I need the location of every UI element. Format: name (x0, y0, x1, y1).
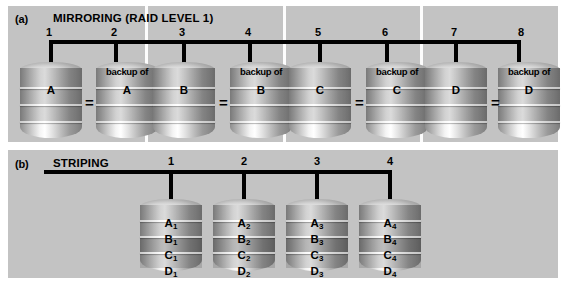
stripe-label-b: B2 (213, 233, 275, 245)
equals-sign-3: = (355, 94, 364, 111)
stripe-number-3: 3 (307, 155, 327, 167)
stripe-label-b: B4 (359, 233, 421, 245)
disk-body (425, 68, 487, 138)
disk-body (96, 68, 158, 138)
stripe-label-c: C2 (213, 249, 275, 261)
panel-b-tag: (b) (15, 158, 28, 170)
equals-sign-1: = (85, 94, 94, 111)
disk-label: B (230, 84, 292, 96)
striping-bus-line (44, 170, 392, 174)
disk-body (153, 68, 215, 138)
disk-body (20, 68, 82, 138)
panel-b-title: STRIPING (53, 157, 109, 169)
disk-body (230, 68, 292, 138)
bus-drop-6 (385, 40, 389, 62)
disk-label: C (366, 84, 428, 96)
disk-number-4: 4 (238, 26, 258, 38)
stripe-label-c: C1 (140, 249, 202, 261)
mirroring-bus-line (49, 40, 521, 44)
disk-label: D (425, 84, 487, 96)
stripe-label-a: A3 (286, 217, 348, 229)
equals-sign-2: = (219, 94, 228, 111)
backup-caption: backup of (96, 66, 158, 77)
disk-body (366, 68, 428, 138)
stripe-label-d: D2 (213, 265, 275, 277)
stripe-label-b: B1 (140, 233, 202, 245)
raid-diagram: (a) MIRRORING (RAID LEVEL 1) 1 2 3 4 5 6… (0, 0, 566, 284)
disk-number-5: 5 (308, 26, 328, 38)
bus-drop-4 (248, 40, 252, 62)
disk-body (498, 68, 560, 138)
stripe-label-d: D4 (359, 265, 421, 277)
backup-caption: backup of (498, 66, 560, 77)
disk-number-6: 6 (375, 26, 395, 38)
stripe-label-c: C3 (286, 249, 348, 261)
stripe-label-b: B3 (286, 233, 348, 245)
equals-sign-4: = (491, 94, 500, 111)
panel-a-tag: (a) (15, 13, 28, 25)
stripe-number-4: 4 (380, 155, 400, 167)
stripe-label-c: C4 (359, 249, 421, 261)
stripe-number-1: 1 (161, 155, 181, 167)
disk-label: D (498, 84, 560, 96)
panel-a-title: MIRRORING (RAID LEVEL 1) (53, 12, 213, 24)
backup-caption: backup of (230, 66, 292, 77)
mirroring-panel: (a) MIRRORING (RAID LEVEL 1) 1 2 3 4 5 6… (8, 6, 558, 142)
stripe-label-a: A1 (140, 217, 202, 229)
disk-label: C (289, 84, 351, 96)
bus-drop-8 (517, 40, 521, 62)
disk-body (289, 68, 351, 138)
disk-number-3: 3 (172, 26, 192, 38)
disk-number-7: 7 (444, 26, 464, 38)
bus-drop-2 (114, 40, 118, 62)
stripe-label-d: D1 (140, 265, 202, 277)
disk-label: B (153, 84, 215, 96)
disk-label: A (20, 84, 82, 96)
stripe-number-2: 2 (234, 155, 254, 167)
stripe-label-d: D3 (286, 265, 348, 277)
stripe-label-a: A2 (213, 217, 275, 229)
disk-number-2: 2 (104, 26, 124, 38)
disk-number-8: 8 (511, 26, 531, 38)
stripe-label-a: A4 (359, 217, 421, 229)
striping-panel: (b) STRIPING 1 2 3 4 A1 B1 C1 (8, 150, 558, 278)
backup-caption: backup of (366, 66, 428, 77)
disk-number-1: 1 (39, 26, 59, 38)
disk-label: A (96, 84, 158, 96)
